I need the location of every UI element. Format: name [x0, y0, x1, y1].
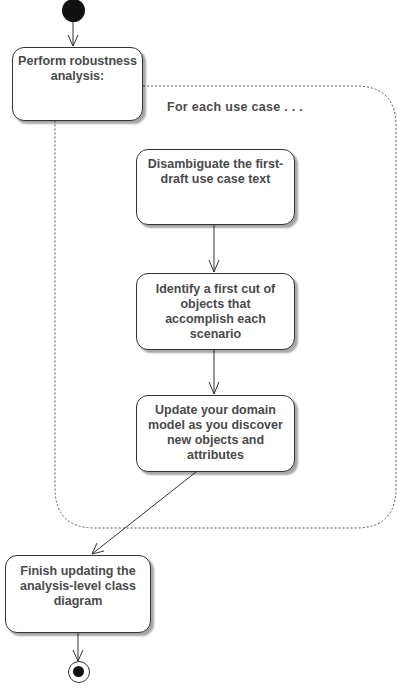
action-identify-objects[interactable]: Identify a first cut of objects that acc…: [136, 273, 295, 350]
action-label: Update your domain model as you discover…: [148, 403, 283, 462]
action-finish-class-diagram[interactable]: Finish updating the analysis-level class…: [5, 555, 151, 633]
action-update-domain-model[interactable]: Update your domain model as you discover…: [136, 395, 295, 472]
action-perform-robustness-analysis[interactable]: Perform robustness analysis:: [12, 47, 143, 121]
action-label: Disambiguate the first-draft use case te…: [148, 157, 283, 186]
action-label: Perform robustness analysis:: [18, 54, 137, 83]
action-disambiguate[interactable]: Disambiguate the first-draft use case te…: [136, 149, 295, 225]
final-node-inner: [73, 666, 84, 677]
final-node-icon: [68, 661, 90, 683]
initial-node-icon: [62, 0, 85, 22]
edge-update-finish: [92, 472, 196, 554]
expansion-region-label: For each use case . . .: [167, 100, 303, 114]
action-label: Finish updating the analysis-level class…: [20, 564, 136, 608]
action-label: Identify a first cut of objects that acc…: [156, 282, 275, 341]
